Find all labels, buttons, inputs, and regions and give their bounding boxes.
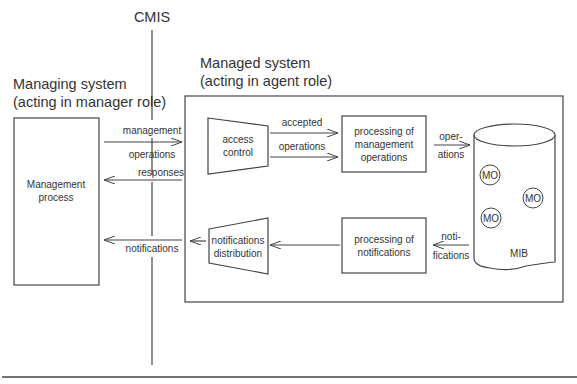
svg-text:management: management	[355, 139, 414, 150]
svg-text:control: control	[223, 147, 253, 158]
svg-text:notifications: notifications	[126, 243, 179, 254]
svg-text:process: process	[38, 192, 73, 203]
svg-text:operations: operations	[129, 149, 176, 160]
svg-text:MO: MO	[482, 170, 498, 181]
managed-system-subtitle: (acting in agent role)	[200, 73, 332, 89]
mib-label: MIB	[510, 248, 528, 259]
managed-system-title: Managed system	[200, 55, 310, 71]
notifications-distribution-block	[209, 218, 268, 274]
svg-text:responses: responses	[138, 167, 184, 178]
svg-text:ations: ations	[438, 149, 465, 160]
svg-text:management: management	[123, 125, 182, 136]
svg-text:notifications: notifications	[212, 235, 265, 246]
svg-text:access: access	[222, 134, 253, 145]
mib-database: MO MO MO MIB	[474, 124, 555, 270]
svg-text:processing of: processing of	[354, 126, 414, 137]
processing-notifications-block	[342, 218, 426, 273]
svg-text:accepted: accepted	[282, 117, 323, 128]
svg-text:noti-: noti-	[441, 231, 460, 242]
managing-system-subtitle: (acting in manager role)	[13, 94, 166, 110]
svg-text:notifications: notifications	[358, 247, 411, 258]
management-process-label: Management	[27, 179, 86, 190]
svg-text:MO: MO	[525, 193, 541, 204]
managing-system-title: Managing system	[13, 76, 127, 92]
svg-text:processing of: processing of	[354, 234, 414, 245]
svg-text:distribution: distribution	[214, 248, 262, 259]
svg-text:operations: operations	[279, 141, 326, 152]
svg-text:operations: operations	[361, 152, 408, 163]
cmis-label: CMIS	[134, 9, 170, 25]
svg-text:oper-: oper-	[439, 131, 462, 142]
access-control-block	[208, 118, 268, 174]
svg-text:fications: fications	[433, 250, 470, 261]
svg-text:MO: MO	[483, 213, 499, 224]
cmis-diagram: CMIS Managing system (acting in manager …	[0, 0, 577, 384]
